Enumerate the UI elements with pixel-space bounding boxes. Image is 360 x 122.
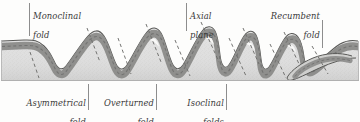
label-overturned-fold: Overturned fold — [94, 89, 154, 122]
leader-line-monoclinal — [29, 3, 30, 36]
label-recumbent-line2: fold — [303, 30, 320, 40]
label-recumbent-line1: Recumbent — [271, 11, 320, 21]
label-monoclinal-line2: fold — [33, 30, 50, 40]
label-isoclinal-line2: folds — [203, 117, 224, 122]
label-overturned-line1: Overturned — [104, 98, 154, 108]
label-monoclinal-fold: Monoclinal fold — [33, 2, 113, 40]
leader-line-isoclinal — [226, 84, 227, 110]
label-monoclinal-line1: Monoclinal — [33, 11, 81, 21]
label-axial-plane-line1: Axial — [190, 11, 212, 21]
label-overturned-line2: fold — [137, 117, 154, 122]
label-isoclinal-folds: Isoclinal folds — [164, 89, 224, 122]
leader-line-overturned — [156, 84, 157, 110]
fold-types-diagram: Monoclinal fold Axial plane Recumbent fo… — [0, 0, 360, 122]
leader-line-axial-plane — [186, 3, 187, 31]
label-recumbent-fold: Recumbent fold — [238, 2, 320, 40]
label-asymmetrical-line2: fold — [69, 117, 86, 122]
label-asymmetrical-line1: Asymmetrical — [26, 98, 86, 108]
label-axial-plane-line2: plane — [190, 30, 214, 40]
leader-line-recumbent — [322, 20, 323, 48]
label-isoclinal-line1: Isoclinal — [187, 98, 224, 108]
leader-line-asymmetrical — [88, 84, 89, 110]
label-asymmetrical-fold: Asymmetrical fold — [6, 89, 86, 122]
